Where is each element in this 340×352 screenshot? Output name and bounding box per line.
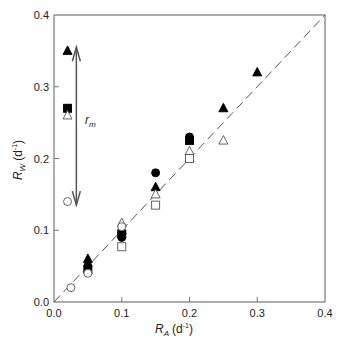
y-tick-label: 0.2 [34,153,49,165]
data-point-open-triangle [185,146,194,155]
data-point-filled-triangle [219,103,228,112]
data-point-open-circle [64,198,72,206]
data-point-open-square [186,155,194,163]
rm-annotation-label: rm [85,113,96,129]
y-tick-label: 0.1 [34,224,49,236]
x-axis-label: RA(d-1) [155,322,193,338]
data-point-open-circle [118,223,126,231]
y-tick-label: 0.4 [34,9,49,21]
data-point-filled-circle [152,169,160,177]
data-point-open-triangle [219,136,228,145]
data-point-open-circle [84,269,92,277]
data-point-open-circle [67,284,75,292]
data-point-filled-triangle [63,46,72,55]
rm-range-arrow [72,47,80,205]
x-tick-label: 0.1 [114,307,129,319]
data-point-filled-triangle [253,67,262,76]
data-point-open-square [118,243,126,251]
scatter-chart: 0.00.10.20.30.40.00.10.20.30.4 RA(d-1) R… [0,0,340,352]
x-tick-label: 0.2 [182,307,197,319]
x-tick-label: 0.3 [250,307,265,319]
data-points [63,46,262,292]
y-tick-label: 0.0 [34,296,49,308]
data-point-filled-triangle [83,254,92,263]
x-tick-label: 0.0 [46,307,61,319]
data-point-filled-square [186,137,194,145]
x-tick-label: 0.4 [317,307,332,319]
data-point-open-square [152,201,160,209]
y-axis-label: RW(d-1) [11,140,27,180]
y-tick-label: 0.3 [34,81,49,93]
